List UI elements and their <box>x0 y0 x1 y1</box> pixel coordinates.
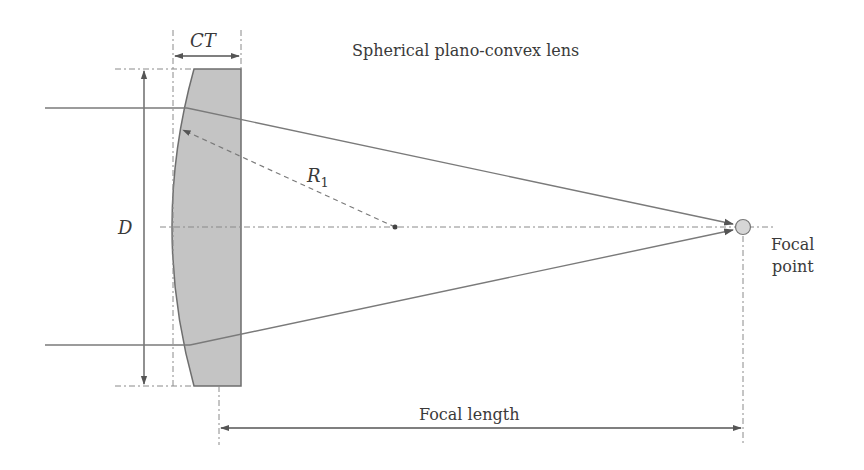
diameter-label: D <box>117 217 133 238</box>
ct-label: CT <box>190 30 218 51</box>
plano-convex-lens-diagram: Spherical plano-convex lens CT D R1 Foca… <box>0 0 864 470</box>
radius-label-subscript: 1 <box>321 175 329 190</box>
diagram-title: Spherical plano-convex lens <box>352 41 579 60</box>
focal-point-label-line2: point <box>772 257 814 276</box>
center-of-curvature-dot <box>393 225 398 230</box>
focal-length-label: Focal length <box>419 405 519 424</box>
radius-label-main: R <box>306 165 321 186</box>
focal-point-label-line1: Focal <box>771 235 814 254</box>
focal-point-marker <box>736 220 751 235</box>
radius-label: R1 <box>306 165 329 190</box>
